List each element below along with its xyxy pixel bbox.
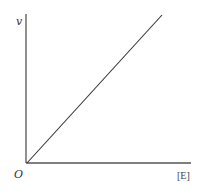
origin-label: O	[14, 168, 23, 181]
chart: v O [E]	[0, 0, 207, 191]
x-axis-label: [E]	[177, 170, 190, 181]
data-line	[27, 15, 162, 163]
y-axis-label: v	[16, 15, 23, 28]
